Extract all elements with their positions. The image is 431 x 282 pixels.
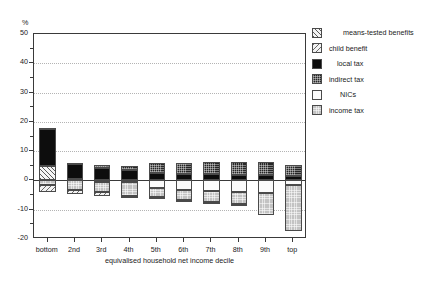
y-tick-mark [29,92,33,93]
y-tick-label: 30 [6,88,28,96]
white-swatch [312,90,322,100]
bar-segment-child [149,197,165,199]
x-tick-label-bottom: bottom [33,245,60,254]
bar-segment-child [203,202,219,204]
plot-area [33,33,306,238]
y-tick-mark [29,209,33,210]
bar-segment-indirect [121,166,137,170]
bar-segment-child [176,200,192,202]
y-tick-mark-minor [30,48,33,49]
bar-segment-income [203,191,219,202]
y-tick-mark-minor [30,77,33,78]
bar-segment-income [94,182,110,193]
x-tick-mark [156,238,157,242]
y-tick-label: 10 [6,146,28,154]
bar-segment-indirect [258,162,274,175]
legend-item: means-tested benefits [312,25,430,41]
bar-segment-nics [258,180,274,192]
bar-segment-nics [176,180,192,189]
bar-segment-child [39,185,55,191]
y-tick-label: 20 [6,117,28,125]
x-tick-mark [47,238,48,242]
bar-segment-indirect [149,163,165,172]
y-axis-unit-label: % [22,18,28,27]
x-tick-label-4th: 4th [115,245,142,254]
x-tick-mark [238,238,239,242]
y-tick-label: 50 [6,29,28,37]
bar-segment-income [149,188,165,197]
y-tick-mark-minor [30,194,33,195]
legend-item: NICs [312,87,430,103]
y-tick-label: 0 [6,175,28,183]
x-tick-label-8th: 8th [224,245,251,254]
bar-segment-indirect [67,163,83,165]
bar-segment-income [258,193,274,215]
y-tick-mark-minor [30,223,33,224]
x-axis-title: equivalised household net income decile [33,256,306,265]
y-tick-label: 40 [6,58,28,66]
x-tick-mark [101,238,102,242]
bar-segment-local [149,173,165,181]
dark-checker-swatch [312,74,322,84]
y-tick-mark [29,121,33,122]
x-tick-label-6th: 6th [170,245,197,254]
bar-segment-income [176,190,192,200]
bar-segment-child [231,204,247,206]
bar-segment-nics [231,180,247,192]
bar-segment-indirect [203,162,219,174]
y-tick-mark [29,179,33,180]
bar-segment-indirect [94,165,110,168]
bar-segment-income [285,185,301,231]
legend-item: child benefit [312,41,430,57]
y-tick-mark [29,150,33,151]
solid-black-swatch [312,59,322,69]
bar-group [94,34,110,237]
legend: means-tested benefitschild benefitlocal … [312,25,430,118]
legend-item: income tax [312,103,430,119]
bar-group [285,34,301,237]
bar-segment-child [67,190,83,195]
x-tick-mark [74,238,75,242]
bar-segment-indirect [231,162,247,175]
light-grey-swatch [312,105,322,115]
pattern-back-hatch-swatch [312,43,322,53]
legend-label: means-tested benefits [343,28,414,37]
bar-segment-indirect [176,163,192,174]
pattern-diagonal-hatch-swatch [312,28,322,38]
bar-segment-local [39,129,55,165]
bar-segment-indirect [285,165,301,176]
bar-segment-nics [203,180,219,191]
bar-segment-income [67,180,83,189]
x-tick-label-3rd: 3rd [88,245,115,254]
bar-group [67,34,83,237]
x-tick-mark [210,238,211,242]
legend-label: indirect tax [329,75,364,84]
bar-segment-child [94,192,110,196]
bar-segment-means [39,166,55,181]
x-tick-mark [292,238,293,242]
bar-segment-income [121,182,137,195]
bar-group [176,34,192,237]
chart-container: % 50403020100-10-20 bottom2nd3rd4th5th6t… [0,0,431,282]
bar-segment-local [176,174,192,181]
legend-label: local tax [337,59,363,68]
y-tick-mark-minor [30,136,33,137]
legend-item: indirect tax [312,72,430,88]
bar-group [39,34,55,237]
bar-segment-child [121,196,137,199]
y-tick-mark-minor [30,106,33,107]
bar-group [149,34,165,237]
bar-segment-income [231,192,247,204]
legend-label: child benefit [329,44,367,53]
x-tick-label-7th: 7th [197,245,224,254]
bar-group [121,34,137,237]
y-tick-label: -10 [6,205,28,213]
bar-group [231,34,247,237]
y-tick-label: -20 [6,234,28,242]
x-tick-label-9th: 9th [251,245,278,254]
x-tick-mark [129,238,130,242]
y-tick-mark-minor [30,165,33,166]
x-tick-mark [183,238,184,242]
x-tick-mark [265,238,266,242]
bar-segment-indirect [39,128,55,130]
